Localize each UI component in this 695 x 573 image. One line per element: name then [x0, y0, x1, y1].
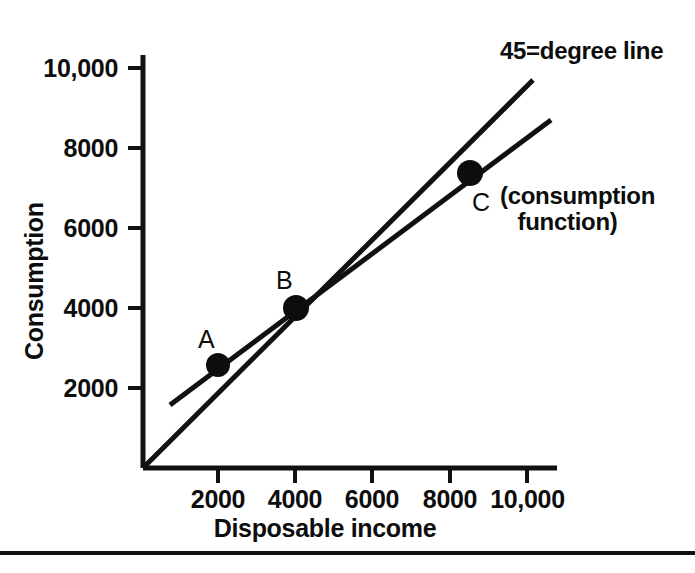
- x-axis-title: Disposable income: [180, 516, 470, 541]
- data-point-b: [283, 295, 309, 321]
- data-point-b-label: B: [276, 268, 292, 293]
- x-tick-label-10000: 10,000: [470, 487, 585, 512]
- y-tick-label-10000: 10,000: [18, 56, 118, 81]
- data-point-c-label: C: [472, 190, 490, 215]
- forty-five-degree-line-label: 45=degree line: [500, 38, 663, 64]
- consumption-function-label-line2: function): [500, 209, 635, 235]
- data-point-c: [457, 160, 483, 186]
- y-tick-label-8000: 8000: [18, 136, 118, 161]
- y-tick-label-2000: 2000: [18, 376, 118, 401]
- data-point-a: [206, 353, 230, 377]
- y-axis-title: Consumption: [22, 202, 47, 360]
- forty-five-degree-line: [143, 80, 533, 468]
- bottom-divider: [0, 551, 695, 555]
- consumption-function-figure: 10,000 8000 6000 4000 2000 Consumption 2…: [0, 0, 695, 573]
- data-point-a-label: A: [198, 327, 214, 352]
- consumption-function-label-line1: (consumption: [500, 183, 655, 209]
